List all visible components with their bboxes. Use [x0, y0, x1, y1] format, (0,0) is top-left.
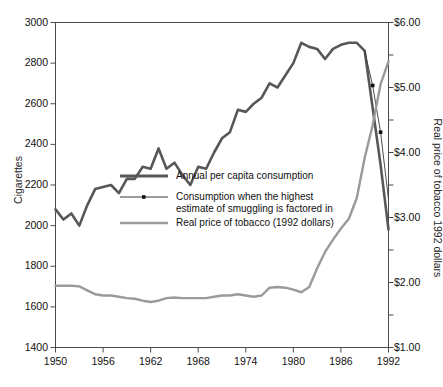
x-axis-tick-label: 1974	[224, 355, 268, 367]
x-axis-tick-label: 1980	[271, 355, 315, 367]
y-axis-left-tick-label: 1600	[6, 300, 48, 312]
x-axis-tick-label: 1986	[319, 355, 363, 367]
y-axis-left-tick-label: 2400	[6, 137, 48, 149]
y-axis-left-tick-label: 3000	[6, 16, 48, 28]
legend-item-label: Annual per capita consumption	[176, 170, 313, 182]
x-axis-tick-label: 1992	[367, 355, 411, 367]
y-axis-left-tick-label: 2200	[6, 178, 48, 190]
x-axis-tick-label: 1956	[81, 355, 125, 367]
legend-item-label: Consumption when the highest estimate of…	[176, 191, 333, 214]
y-axis-left-tick-label: 1800	[6, 259, 48, 271]
x-axis-tick-label: 1962	[129, 355, 173, 367]
x-axis-tick-label: 1950	[34, 355, 78, 367]
y-axis-right-tick-label: $5.00	[394, 81, 442, 93]
y-axis-left-tick-label: 1400	[6, 341, 48, 353]
y-axis-left-tick-label: 2600	[6, 97, 48, 109]
legend-item-label: Real price of tobacco (1992 dollars)	[176, 217, 334, 229]
y-axis-left-tick-label: 2000	[6, 219, 48, 231]
y-axis-right-tick-label: $4.00	[394, 146, 442, 158]
y-axis-right-title: Real price of tobacco 1992 dollars	[432, 118, 443, 278]
chart-container: Cigarettes Real price of tobacco 1992 do…	[0, 0, 443, 387]
y-axis-left-tick-label: 2800	[6, 56, 48, 68]
y-axis-right-tick-label: $6.00	[394, 16, 442, 28]
y-axis-right-tick-label: $3.00	[394, 211, 442, 223]
y-axis-right-tick-label: $1.00	[394, 341, 442, 353]
y-axis-right-tick-label: $2.00	[394, 276, 442, 288]
x-axis-tick-label: 1968	[176, 355, 220, 367]
